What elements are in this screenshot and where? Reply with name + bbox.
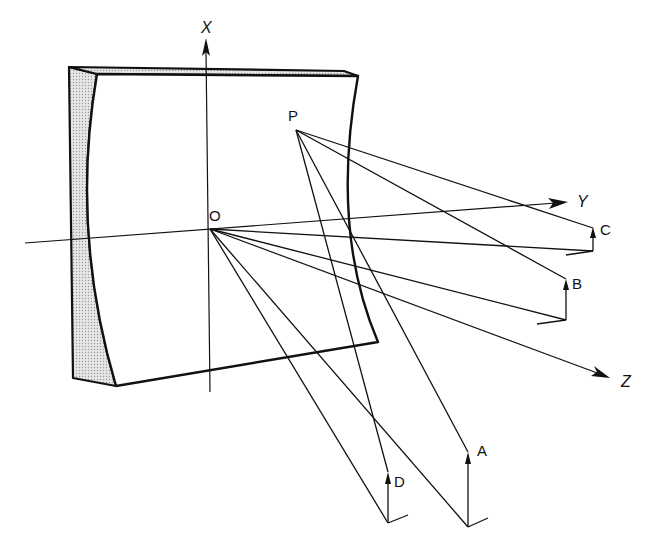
image-c-base-tick [566, 251, 593, 255]
y-axis-label: Y [577, 194, 588, 210]
point-label-p: P [288, 108, 298, 123]
z-axis-label: Z [621, 374, 631, 390]
x-axis-label: X [201, 20, 212, 36]
diagram-canvas [0, 0, 658, 552]
point-label-c: C [600, 222, 611, 237]
image-b-base-tick [537, 320, 566, 324]
lens-ray-diagram: X Y Z O P C B A D [0, 0, 658, 552]
image-arrows [385, 227, 596, 527]
point-label-a: A [477, 443, 487, 458]
image-arrow-a [465, 452, 488, 527]
point-label-b: B [572, 276, 582, 291]
image-a-base-tick [468, 518, 488, 527]
image-d-base-tick [388, 515, 408, 523]
point-label-d: D [394, 474, 405, 489]
lens [69, 67, 378, 386]
origin-label-o: O [209, 208, 221, 223]
